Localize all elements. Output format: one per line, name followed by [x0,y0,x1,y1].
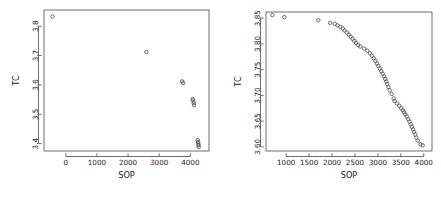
data-point [390,92,394,96]
scatter-plot-right: 10001500200025003000350040003.603.653.70… [220,0,441,199]
data-point-group [271,13,425,147]
data-point [317,18,321,22]
data-point [345,31,349,35]
data-point [145,50,149,54]
x-tick-label: 1500 [300,158,319,167]
data-point [271,13,275,17]
y-tick-label: 3.85 [253,10,262,26]
x-tick-label: 2000 [323,158,342,167]
y-tick-label: 3.70 [253,87,262,103]
data-point [51,15,55,19]
y-tick-label: 3.7 [31,50,40,61]
data-point [416,139,420,143]
x-tick-label: 3500 [392,158,411,167]
y-tick-label: 3.65 [253,113,262,129]
scatter-panel-left: 010002000300040003.43.53.63.73.8SOPTC [0,0,220,199]
x-tick-label: 1000 [277,158,296,167]
data-point [395,102,399,106]
y-tick-label: 3.4 [31,138,40,150]
data-point [283,15,287,19]
figure-canvas: 010002000300040003.43.53.63.73.8SOPTC 10… [0,0,441,199]
y-tick-label: 3.60 [253,138,262,154]
x-tick-label: 0 [64,158,69,167]
y-axis-title: TC [11,75,21,87]
data-point [388,89,392,93]
y-tick-label: 3.75 [253,62,262,78]
scatter-plot-left: 010002000300040003.43.53.63.73.8SOPTC [0,0,220,199]
x-tick-label: 3000 [369,158,388,167]
y-axis-title: TC [233,76,243,88]
y-tick-label: 3.5 [31,109,40,120]
x-tick-label: 1000 [88,158,107,167]
y-tick-label: 3.6 [31,79,40,91]
x-tick-label: 3000 [150,158,169,167]
x-axis-title: SOP [118,170,135,180]
scatter-panel-right: 10001500200025003000350040003.603.653.70… [220,0,441,199]
x-tick-label: 2000 [119,158,138,167]
x-tick-label: 2500 [346,158,365,167]
data-point-group [51,15,201,149]
y-tick-label: 3.80 [253,35,262,51]
plot-frame [44,10,209,151]
data-point [328,21,332,25]
x-axis-title: SOP [341,170,358,180]
y-tick-label: 3.8 [31,20,40,32]
x-tick-label: 4000 [415,158,434,167]
x-tick-label: 4000 [181,158,200,167]
